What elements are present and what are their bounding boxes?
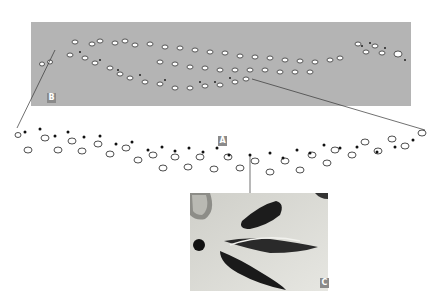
footprint-photo-drawing <box>190 193 328 291</box>
connector-lines <box>17 50 425 200</box>
panel-label-c: C <box>320 278 329 288</box>
panel-label-a: A <box>218 136 227 146</box>
footprint-photo-c <box>190 193 328 291</box>
trackway-overview <box>40 39 407 90</box>
panel-label-b: B <box>47 93 56 103</box>
